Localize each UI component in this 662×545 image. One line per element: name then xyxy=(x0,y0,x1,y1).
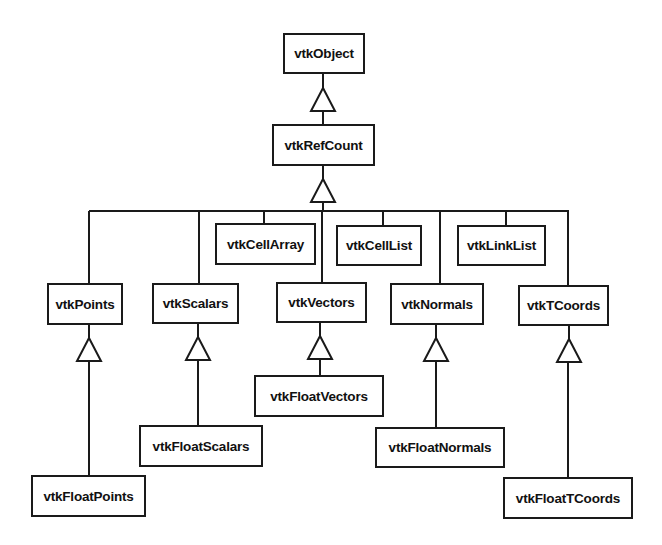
class-node-vtkscalars: vtkScalars xyxy=(152,283,239,324)
inheritance-arrow-icon xyxy=(311,88,335,111)
class-node-vtklinklist: vtkLinkList xyxy=(457,225,546,266)
class-node-vtkfloatscalars: vtkFloatScalars xyxy=(139,425,263,467)
class-node-vtkvectors: vtkVectors xyxy=(276,282,367,323)
inheritance-arrow-icon xyxy=(424,338,448,361)
class-node-vtkrefcount: vtkRefCount xyxy=(272,124,375,166)
class-node-vtkcelllist: vtkCellList xyxy=(336,225,422,266)
inheritance-arrow-icon xyxy=(77,338,101,361)
class-node-vtktcoords: vtkTCoords xyxy=(518,285,609,326)
class-node-vtknormals: vtkNormals xyxy=(390,283,484,325)
class-node-vtkfloatvectors: vtkFloatVectors xyxy=(254,375,384,417)
inheritance-arrow-icon xyxy=(308,336,332,359)
class-node-vtkfloatpoints: vtkFloatPoints xyxy=(31,475,146,517)
inheritance-arrow-icon xyxy=(557,339,581,362)
class-node-vtkpoints: vtkPoints xyxy=(47,283,123,325)
class-node-vtkfloatnormals: vtkFloatNormals xyxy=(375,427,505,468)
inheritance-arrow-icon xyxy=(311,179,335,202)
class-node-vtkfloattcoords: vtkFloatTCoords xyxy=(503,477,633,519)
class-node-vtkcellarray: vtkCellArray xyxy=(215,223,316,265)
class-node-vtkobject: vtkObject xyxy=(283,33,365,74)
inheritance-arrow-icon xyxy=(186,337,210,360)
inheritance-connectors xyxy=(0,0,662,545)
